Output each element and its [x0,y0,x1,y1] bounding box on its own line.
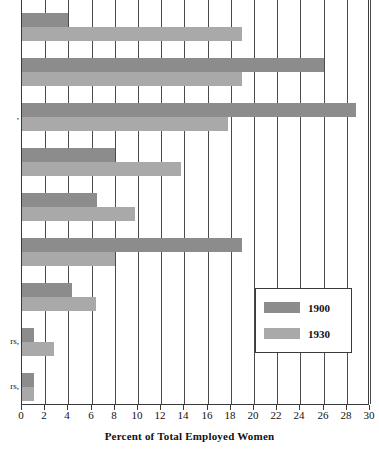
bar-1930 [22,117,228,131]
bar-group [22,180,368,225]
bar-1930 [22,207,135,221]
bar-1930 [22,27,242,41]
x-tick-label: 8 [102,409,126,421]
x-tick-label: 24 [287,409,311,421]
legend-label-1900: 1900 [308,302,330,314]
bar-1900 [22,13,68,27]
legend-item-1930: 1930 [264,327,330,340]
bar-1900 [22,283,72,297]
legend-label-1930: 1930 [308,328,330,340]
bar-1930 [22,387,34,401]
bar-group [22,90,368,135]
x-tick-label: 6 [79,409,103,421]
x-axis-title: Percent of Total Employed Women [0,430,379,442]
legend-item-1900: 1900 [264,301,330,314]
x-tick-label: 28 [334,409,358,421]
x-tick-label: 14 [171,409,195,421]
x-tick-label: 2 [32,409,56,421]
x-tick-label: 12 [148,409,172,421]
legend-swatch-1930 [264,328,300,339]
x-tick-label: 0 [9,409,33,421]
bar-1900 [22,373,34,387]
gridline [370,0,371,404]
bar-1900 [22,193,97,207]
category-label: rs, [10,336,19,346]
x-axis-tick-labels: 024681012141618202224262830 [0,405,379,423]
bar-1900 [22,238,242,252]
category-label: , [17,111,19,121]
category-label: rs, [10,381,19,391]
bar-1900 [22,103,356,117]
bar-1930 [22,297,96,311]
bar-chart: ,rs,rs, 024681012141618202224262830 Perc… [0,0,379,451]
bar-1930 [22,162,181,176]
bar-group [22,0,368,45]
category-axis-labels: ,rs,rs, [0,0,21,405]
legend: 1900 1930 [255,288,352,353]
x-tick-label: 10 [125,409,149,421]
x-tick-label: 4 [55,409,79,421]
x-tick-label: 18 [218,409,242,421]
x-tick-label: 20 [241,409,265,421]
bar-group [22,45,368,90]
bar-group [22,135,368,180]
x-tick-label: 30 [357,409,379,421]
bar-1900 [22,328,34,342]
legend-swatch-1900 [264,302,300,313]
bar-1930 [22,72,242,86]
bar-1930 [22,252,115,266]
x-tick-label: 26 [311,409,335,421]
bar-1930 [22,342,54,356]
x-tick-label: 22 [264,409,288,421]
bar-1900 [22,58,324,72]
x-tick-label: 16 [195,409,219,421]
bar-group [22,225,368,270]
bar-1900 [22,148,115,162]
bar-group [22,360,368,405]
